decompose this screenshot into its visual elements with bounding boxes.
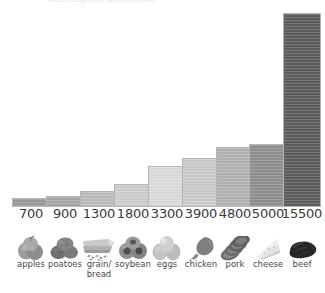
category-label-line2: bread [87,269,112,279]
grain-bread-icon [80,225,118,261]
chicken-icon [182,225,220,261]
bar-eggs [148,166,186,207]
category-label-row: applespoatoesgrain/breadsoybeaneggschick… [0,260,325,290]
bar-chart: Water footprint of selected foods 700900… [0,0,325,293]
bar-texture [81,192,117,206]
bar-cheese [249,144,287,207]
bar-texture [149,167,185,206]
potatoes-icon [46,225,84,261]
category-label: beef [279,260,325,270]
bar-chicken [182,158,220,207]
bar-texture [250,145,286,206]
plot-area [0,0,325,207]
bar-texture [115,185,151,206]
bar-texture [217,148,253,206]
bar-texture [183,159,219,206]
beef-icon [283,225,321,261]
bar-soybean [114,184,152,207]
value-label-row: 70090013001800330039004800500015500 [0,206,325,226]
eggs-icon [148,225,186,261]
bar-texture [13,199,49,206]
bar-texture [47,197,83,206]
food-image-row [0,225,325,261]
bar-beef [283,13,321,207]
value-label: 15500 [280,206,324,221]
soybean-icon [114,225,152,261]
cheese-icon [249,225,287,261]
bar-grain [80,191,118,207]
bar-texture [284,14,320,206]
apples-icon [12,225,50,261]
